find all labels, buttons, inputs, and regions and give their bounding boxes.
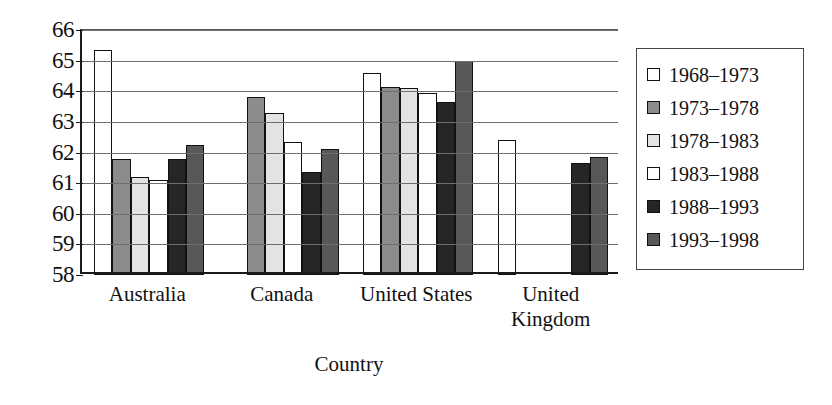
bar: [149, 180, 167, 275]
y-axis-tick-labels: 666564636261605958: [28, 29, 74, 274]
bar: [265, 113, 283, 275]
gridline: [82, 30, 618, 31]
y-axis-tick-label: 65: [52, 48, 74, 71]
y-axis-tick-mark: [76, 244, 83, 245]
x-axis-category-labels: AustraliaCanadaUnited StatesUnited Kingd…: [80, 282, 618, 342]
y-axis-tick-mark: [76, 275, 83, 276]
bar-chart-figure: 666564636261605958 AustraliaCanadaUnited…: [0, 0, 832, 405]
legend-item-label: 1983–1988: [669, 164, 759, 184]
legend-item-label: 1993–1998: [669, 230, 759, 250]
legend: 1968–19731973–19781978–19831983–19881988…: [636, 48, 804, 270]
bar: [247, 97, 265, 275]
legend-item-label: 1968–1973: [669, 65, 759, 85]
y-axis-tick-mark: [76, 183, 83, 184]
x-axis-category-label: United States: [360, 282, 473, 307]
plot-area: [80, 29, 618, 274]
legend-swatch-icon: [647, 233, 660, 246]
y-axis-tick-label: 64: [52, 79, 74, 102]
legend-item[interactable]: 1968–1973: [647, 58, 797, 91]
legend-item[interactable]: 1983–1988: [647, 157, 797, 190]
y-axis-tick-label: 58: [52, 263, 74, 286]
x-axis-title: Country: [80, 352, 618, 377]
bar: [94, 50, 112, 275]
y-axis-tick-mark: [76, 122, 83, 123]
gridline: [82, 91, 618, 92]
bar: [381, 87, 399, 275]
gridline: [82, 183, 618, 184]
y-axis-tick-label: 59: [52, 232, 74, 255]
y-axis-tick-label: 63: [52, 109, 74, 132]
bar: [400, 88, 418, 275]
bar: [302, 172, 320, 275]
legend-swatch-icon: [647, 134, 660, 147]
y-axis-tick-mark: [76, 91, 83, 92]
gridline: [82, 244, 618, 245]
legend-item[interactable]: 1988–1993: [647, 190, 797, 223]
legend-item[interactable]: 1973–1978: [647, 91, 797, 124]
y-axis-tick-mark: [76, 61, 83, 62]
y-axis-tick-label: 61: [52, 171, 74, 194]
gridline: [82, 214, 618, 215]
gridline: [82, 122, 618, 123]
legend-item[interactable]: 1978–1983: [647, 124, 797, 157]
bar: [112, 159, 130, 275]
x-axis-category-label: Canada: [250, 282, 313, 307]
x-axis-line: [82, 272, 618, 274]
gridline: [82, 153, 618, 154]
y-axis-tick-mark: [76, 153, 83, 154]
bar: [131, 177, 149, 275]
y-axis-tick-label: 60: [52, 201, 74, 224]
bar: [437, 102, 455, 275]
bar: [321, 149, 339, 275]
x-axis-category-label: United Kingdom: [511, 282, 590, 332]
bar: [498, 140, 516, 275]
bar: [168, 159, 186, 275]
bar: [590, 157, 608, 275]
legend-swatch-icon: [647, 167, 660, 180]
y-axis-tick-label: 62: [52, 140, 74, 163]
legend-swatch-icon: [647, 200, 660, 213]
legend-item-label: 1978–1983: [669, 131, 759, 151]
bar: [571, 163, 589, 275]
legend-swatch-icon: [647, 68, 660, 81]
bar: [455, 61, 473, 275]
bar: [186, 145, 204, 275]
gridline: [82, 61, 618, 62]
legend-item-label: 1988–1993: [669, 197, 759, 217]
legend-item-label: 1973–1978: [669, 98, 759, 118]
legend-item[interactable]: 1993–1998: [647, 223, 797, 256]
y-axis-tick-mark: [76, 214, 83, 215]
y-axis-tick-label: 66: [52, 18, 74, 41]
x-axis-category-label: Australia: [109, 282, 186, 307]
bar: [284, 142, 302, 275]
legend-swatch-icon: [647, 101, 660, 114]
y-axis-tick-mark: [76, 30, 83, 31]
